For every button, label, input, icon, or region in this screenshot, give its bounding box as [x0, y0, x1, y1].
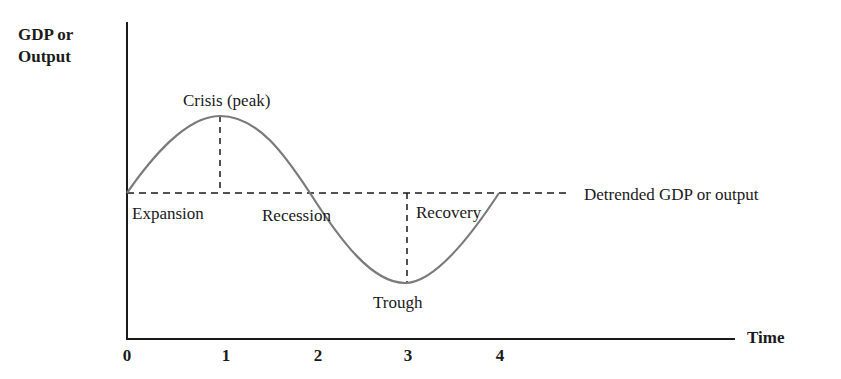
x-tick-2: 2 [308, 346, 328, 366]
y-axis-label-line2: Output [18, 46, 73, 68]
y-axis-label: GDP or Output [18, 24, 73, 68]
expansion-label: Expansion [132, 205, 204, 222]
x-tick-0: 0 [117, 346, 137, 366]
recession-label: Recession [262, 207, 331, 224]
peak-label: Crisis (peak) [183, 92, 270, 109]
baseline-label: Detrended GDP or output [584, 186, 759, 203]
x-tick-3: 3 [398, 346, 418, 366]
y-axis-label-line1: GDP or [18, 24, 73, 46]
business-cycle-curve [127, 116, 499, 283]
x-tick-4: 4 [490, 346, 510, 366]
x-tick-1: 1 [216, 346, 236, 366]
x-axis-label: Time [747, 329, 784, 346]
recovery-label: Recovery [416, 204, 481, 221]
trough-label: Trough [373, 294, 422, 311]
